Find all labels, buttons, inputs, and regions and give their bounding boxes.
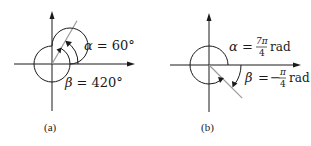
- figure-b: α = 7π 4 rad β = − π 4 rad (b): [170, 13, 310, 134]
- alpha-label-b: α = 7π 4 rad: [229, 36, 291, 58]
- beta-label-a: β=420°: [64, 75, 123, 90]
- beta-fraction-den: 4: [280, 79, 286, 89]
- angle-diagram: α=60° β=420° (a) α = 7π 4 rad β =: [0, 0, 311, 146]
- svg-text:rad: rad: [289, 71, 310, 85]
- figure-a: α=60° β=420° (a): [14, 11, 135, 134]
- terminal-ray-a: [52, 21, 77, 64]
- caption-a: (a): [44, 121, 57, 134]
- beta-arc-b: [235, 65, 242, 85]
- terminal-ray-b: [209, 65, 242, 98]
- y-axis-arrow-b: [207, 13, 212, 21]
- alpha-fraction-den: 4: [259, 48, 265, 58]
- beta-arc-a: [34, 28, 88, 82]
- svg-text:β: β: [244, 70, 253, 85]
- svg-text:=: =: [258, 70, 269, 85]
- y-axis-arrow-a: [50, 11, 55, 19]
- x-axis-arrow-a: [127, 62, 135, 67]
- beta-label-b: β = − π 4 rad: [244, 67, 310, 89]
- beta-fraction-num: π: [279, 67, 287, 77]
- x-axis-arrow-b: [293, 63, 301, 68]
- alpha-label-a: α=60°: [84, 38, 135, 53]
- svg-text:=: =: [242, 39, 253, 54]
- caption-b: (b): [201, 121, 214, 134]
- alpha-arrowhead-b: [218, 77, 224, 83]
- svg-text:rad: rad: [270, 40, 291, 54]
- svg-text:α: α: [229, 39, 238, 54]
- alpha-fraction-num: 7π: [256, 36, 269, 46]
